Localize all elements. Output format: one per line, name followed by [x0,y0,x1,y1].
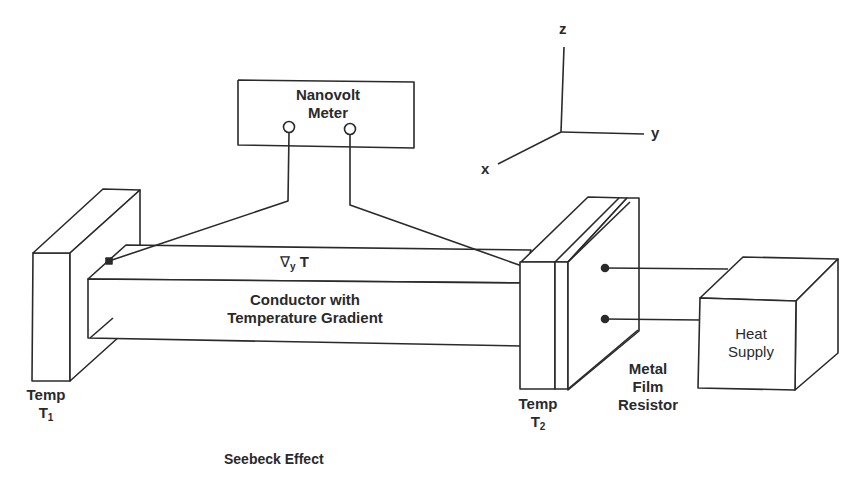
heat-supply-label: Heat Supply [708,325,794,361]
coordinate-axes [498,47,644,164]
metal-film-resistor-label: Metal Film Resistor [608,360,688,414]
seebeck-diagram: Nanovolt Meter z y x ∇y T Conductor with… [0,0,860,484]
axis-x-label: x [481,160,489,177]
temp-t2-label: Temp T2 [512,395,564,433]
gradient-label: ∇y T [280,253,309,273]
axis-y-label: y [651,124,659,141]
conductor-label: Conductor with Temperature Gradient [210,291,400,327]
nanovolt-meter-label: Nanovolt Meter [254,86,402,122]
contact-point-left [106,258,112,264]
diagram-title: Seebeck Effect [224,451,324,468]
meter-terminal-left [284,122,295,133]
heat-supply-cube [698,257,838,390]
temp-t1-label: Temp T1 [20,386,72,424]
axis-z-label: z [559,20,567,37]
meter-terminal-right [345,124,356,135]
